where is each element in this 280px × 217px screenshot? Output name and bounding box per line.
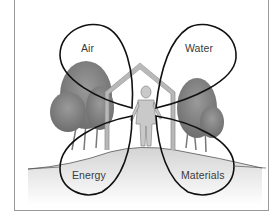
petal-label-water: Water	[185, 42, 213, 54]
diagram-illustration	[0, 0, 280, 217]
left-trees	[50, 61, 114, 150]
right-trees	[177, 78, 224, 152]
petal-label-materials: Materials	[181, 169, 225, 181]
petal-label-air: Air	[81, 42, 94, 54]
petal-label-energy: Energy	[72, 169, 106, 181]
